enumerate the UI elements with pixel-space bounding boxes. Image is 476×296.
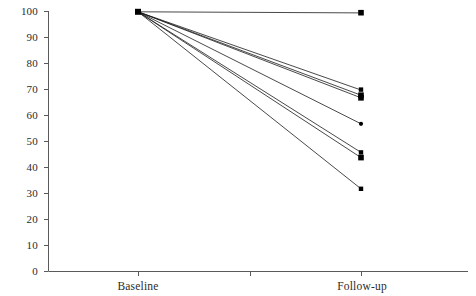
followup-marker-group <box>358 10 364 191</box>
slope-chart: 100 90 80 70 60 50 40 30 20 10 0 Baselin… <box>0 0 476 296</box>
y-tick-label-80: 80 <box>8 58 38 69</box>
y-tick-label-60: 60 <box>8 110 38 121</box>
followup-marker-subject-8 <box>359 187 363 191</box>
y-tick-label-100: 100 <box>8 6 38 17</box>
y-tick-label-70: 70 <box>8 84 38 95</box>
y-tick-label-30: 30 <box>8 188 38 199</box>
x-tick-label-baseline: Baseline <box>117 281 158 293</box>
followup-marker-subject-1 <box>358 10 364 16</box>
series-line-subject-1 <box>138 12 361 13</box>
x-tick-label-followup: Follow-up <box>337 281 387 293</box>
y-tick-label-40: 40 <box>8 162 38 173</box>
y-tick-label-90: 90 <box>8 32 38 43</box>
baseline-marker <box>135 9 141 15</box>
axes-group <box>44 11 468 276</box>
followup-marker-subject-2 <box>359 87 363 91</box>
y-tick-label-50: 50 <box>8 136 38 147</box>
series-line-subject-2 <box>138 12 361 90</box>
series-line-subject-5 <box>138 12 361 124</box>
y-tick-label-0: 0 <box>8 266 38 277</box>
series-line-subject-8 <box>138 12 361 189</box>
followup-marker-subject-4 <box>358 95 364 101</box>
y-tick-label-10: 10 <box>8 240 38 251</box>
y-axis-ticks <box>44 12 49 272</box>
followup-marker-subject-7 <box>358 155 364 161</box>
y-tick-label-20: 20 <box>8 214 38 225</box>
baseline-marker-group <box>135 9 141 15</box>
series-lines <box>138 12 361 189</box>
followup-marker-subject-6 <box>359 150 363 154</box>
x-axis-ticks <box>139 272 362 277</box>
series-line-subject-6 <box>138 12 361 153</box>
followup-marker-subject-5 <box>359 122 363 126</box>
chart-canvas <box>0 0 476 296</box>
